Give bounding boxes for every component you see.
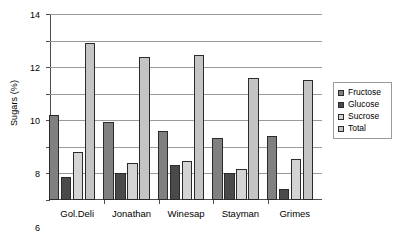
y-tick-label-12: 12 [30, 64, 40, 73]
bar-gol-deli-fructose [49, 115, 60, 200]
bar-winesap-total [194, 55, 205, 200]
legend-item-sucrose[interactable]: Sucrose [338, 111, 387, 122]
bar-jonathan-total [139, 57, 150, 200]
y-tick-mark-14: 14 [46, 14, 50, 15]
legend-swatch-fructose-icon [338, 90, 344, 96]
y-tick-mark-8: 8 [46, 94, 50, 95]
bar-gol-deli-total [85, 43, 96, 200]
category-separator [104, 200, 105, 204]
legend: FructoseGlucoseSucroseTotal [333, 82, 392, 139]
y-tick-label-10: 10 [30, 117, 40, 126]
legend-label-fructose: Fructose [348, 88, 381, 97]
category-separator [268, 200, 269, 204]
legend-item-total[interactable]: Total [338, 123, 387, 134]
bar-stayman-glucose [224, 173, 235, 200]
gridline-14 [50, 14, 322, 15]
legend-swatch-total-icon [338, 126, 344, 132]
x-axis-label-grimes: Grimes [279, 209, 310, 219]
gridline-12 [50, 41, 322, 42]
bar-stayman-sucrose [236, 169, 247, 200]
y-tick-label-6: 6 [35, 223, 40, 232]
legend-swatch-sucrose-icon [338, 114, 344, 120]
legend-label-sucrose: Sucrose [348, 112, 379, 121]
bar-winesap-sucrose [182, 161, 193, 200]
category-separator [159, 200, 160, 204]
x-axis-label-stayman: Stayman [222, 209, 260, 219]
y-tick-label-8: 8 [35, 170, 40, 179]
bar-gol-deli-sucrose [73, 152, 84, 200]
legend-swatch-glucose-icon [338, 102, 344, 108]
y-tick-mark-12: 12 [46, 41, 50, 42]
bar-stayman-total [248, 78, 259, 200]
bar-gol-deli-glucose [61, 177, 72, 200]
bar-jonathan-glucose [115, 173, 126, 200]
legend-label-total: Total [348, 124, 366, 133]
bar-winesap-glucose [170, 165, 181, 200]
bar-jonathan-fructose [103, 122, 114, 200]
bar-stayman-fructose [212, 138, 223, 200]
x-axis-label-gol-deli: Gol.Deli [60, 209, 94, 219]
x-axis-label-winesap: Winesap [168, 209, 205, 219]
bar-winesap-fructose [158, 131, 169, 200]
category-separator [213, 200, 214, 204]
y-axis-title: Sugars (%) [9, 68, 19, 138]
bar-grimes-total [303, 80, 314, 200]
legend-label-glucose: Glucose [348, 100, 379, 109]
y-tick-label-14: 14 [30, 11, 40, 20]
bar-jonathan-sucrose [127, 163, 138, 200]
y-tick-mark-0: 0 [46, 200, 50, 201]
x-axis-label-jonathan: Jonathan [112, 209, 151, 219]
plot-area: 02468101214 Gol.DeliJonathanWinesapStaym… [50, 14, 322, 200]
y-tick-mark-10: 10 [46, 67, 50, 68]
legend-item-fructose[interactable]: Fructose [338, 87, 387, 98]
bar-grimes-sucrose [291, 159, 302, 200]
bar-grimes-glucose [279, 189, 290, 200]
bar-grimes-fructose [267, 136, 278, 200]
legend-item-glucose[interactable]: Glucose [338, 99, 387, 110]
bar-chart-figure: Sugars (%) 02468101214 Gol.DeliJonathanW… [0, 0, 407, 233]
